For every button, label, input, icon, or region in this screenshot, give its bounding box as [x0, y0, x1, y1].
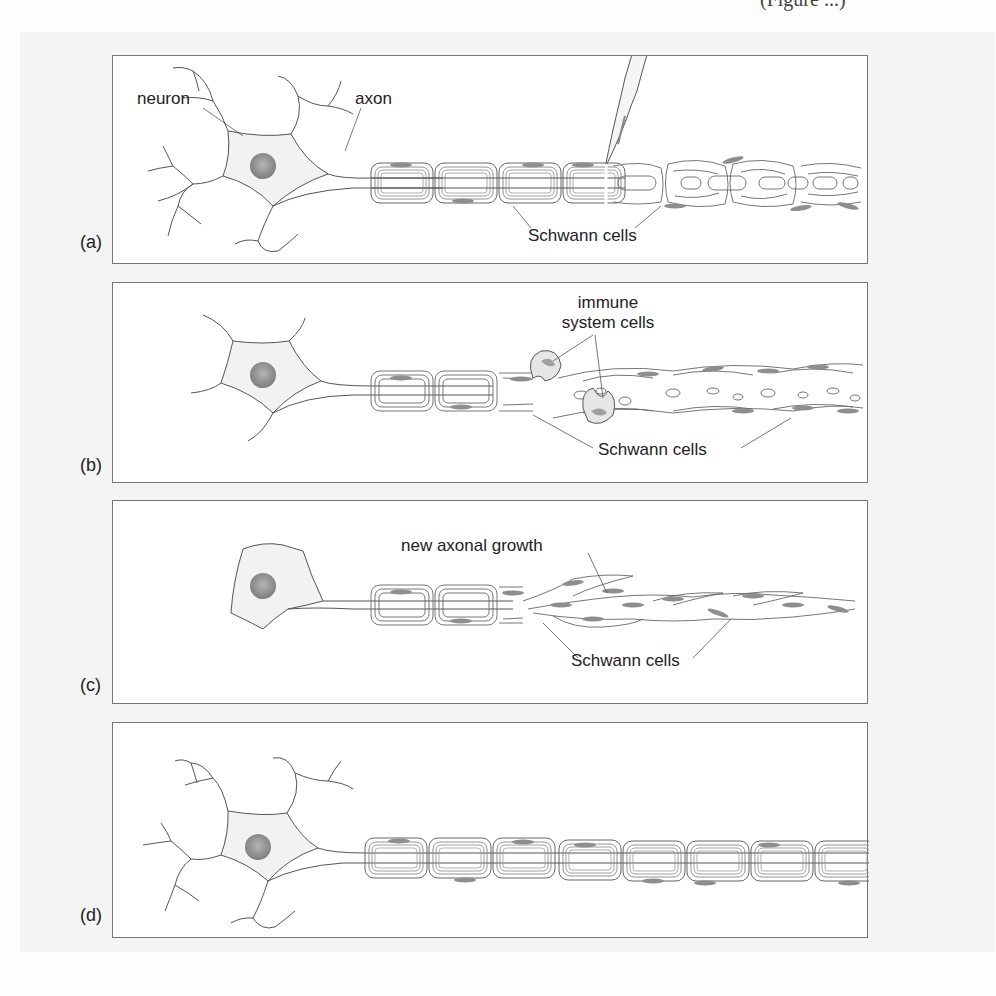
panel-d-regenerated [112, 722, 868, 938]
panel-c-illustration [113, 501, 869, 705]
label-neuron: neuron [137, 89, 190, 109]
panel-d-illustration [113, 723, 869, 939]
label-axon: axon [355, 89, 392, 109]
panel-b-illustration [113, 283, 869, 484]
neuron-nucleus [250, 153, 276, 179]
label-immune-line1: immune [533, 293, 683, 313]
panel-label-b: (b) [80, 455, 102, 476]
label-schwann-cells: Schwann cells [571, 651, 680, 671]
header-fragment: (Figure ...) [760, 0, 846, 11]
scalpel-icon [605, 56, 648, 168]
label-schwann-cells: Schwann cells [528, 226, 637, 246]
label-schwann-cells: Schwann cells [598, 440, 707, 460]
panel-c-regrowth: new axonal growth Schwann cells [112, 500, 868, 704]
label-new-axonal-growth: new axonal growth [401, 536, 543, 556]
panel-label-a: (a) [80, 232, 102, 253]
panel-a-illustration [113, 56, 869, 265]
label-immune-line2: system cells [533, 313, 683, 333]
panel-label-c: (c) [80, 675, 101, 696]
immune-cell [583, 388, 615, 423]
panel-a-nerve-cut: neuron axon Schwann cells [112, 55, 868, 264]
panel-b-degeneration: immune system cells Schwann cells [112, 282, 868, 483]
immune-cell [530, 351, 561, 381]
panel-label-d: (d) [80, 905, 102, 926]
